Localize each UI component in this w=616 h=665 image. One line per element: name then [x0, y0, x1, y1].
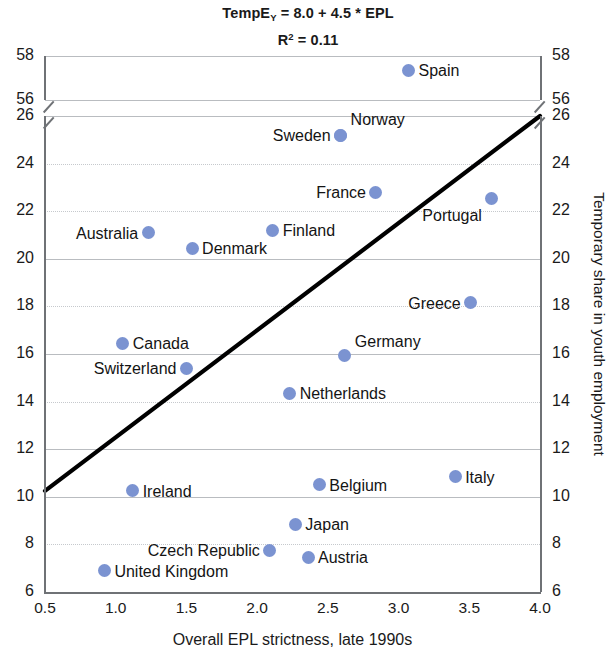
data-point-label-germany: Germany: [355, 333, 421, 350]
y-tick-label-left-58: 58: [0, 47, 34, 63]
data-point-label-greece: Greece: [408, 294, 460, 311]
y-tick-label-left-26: 26: [0, 107, 34, 123]
data-point-label-switzerland: Switzerland: [94, 360, 177, 377]
data-point-austria: [302, 551, 315, 564]
x-tick-label-1.5: 1.5: [163, 600, 209, 616]
x-axis-title: Overall EPL strictness, late 1990s: [45, 631, 540, 649]
data-point-italy: [449, 470, 462, 483]
data-point-label-ireland: Ireland: [143, 482, 192, 499]
data-point-label-france: France: [316, 184, 366, 201]
y-tick-label-right-16: 16: [552, 345, 586, 361]
y-axis-spine-lower-right: [540, 116, 542, 592]
y-tick-label-right-10: 10: [552, 488, 586, 504]
y-tick-label-right-14: 14: [552, 393, 586, 409]
x-tick-label-2.0: 2.0: [234, 600, 280, 616]
chart-title-r2-suffix: = 0.11: [294, 32, 339, 48]
data-point-label-norway: Norway: [351, 111, 405, 128]
chart-title-equation: TempEY = 8.0 + 4.5 * EPL: [0, 4, 616, 27]
data-point-label-portugal: Portugal: [422, 207, 482, 224]
data-point-label-united-kingdom: United Kingdom: [114, 562, 228, 579]
y-axis-spine-upper-left: [44, 56, 46, 100]
y-axis-spine-upper-right: [540, 56, 542, 100]
data-point-spain: [402, 64, 415, 77]
data-point-label-czech-republic: Czech Republic: [148, 542, 260, 559]
data-point-label-austria: Austria: [318, 549, 368, 566]
scatter-chart-figure: TempEY = 8.0 + 4.5 * EPL R2 = 0.11 Spain…: [0, 0, 616, 665]
y-tick-label-left-14: 14: [0, 393, 34, 409]
y-tick-label-right-22: 22: [552, 202, 586, 218]
y-tick-label-left-16: 16: [0, 345, 34, 361]
data-point-label-italy: Italy: [465, 468, 494, 485]
chart-title-r2: R2 = 0.11: [0, 27, 616, 50]
y-tick-label-left-12: 12: [0, 440, 34, 456]
data-point-label-sweden: Sweden: [273, 127, 331, 144]
y-tick-label-right-24: 24: [552, 155, 586, 171]
data-point-sweden: [334, 129, 347, 142]
x-tick-label-0.5: 0.5: [22, 600, 68, 616]
x-tick-label-3.0: 3.0: [376, 600, 422, 616]
plot-area: SpainNorwaySwedenFrancePortugalFinlandAu…: [45, 56, 540, 592]
chart-title-equation-prefix: TempE: [222, 5, 270, 21]
data-point-label-canada: Canada: [133, 335, 189, 352]
chart-title: TempEY = 8.0 + 4.5 * EPL R2 = 0.11: [0, 4, 616, 50]
data-point-label-japan: Japan: [305, 516, 349, 533]
data-point-germany: [338, 349, 351, 362]
data-point-label-belgium: Belgium: [329, 476, 387, 493]
y-tick-label-right-26: 26: [552, 107, 586, 123]
y-tick-label-left-20: 20: [0, 250, 34, 266]
y-tick-label-left-56: 56: [0, 91, 34, 107]
data-point-label-spain: Spain: [418, 62, 459, 79]
x-axis-spine: [44, 592, 541, 594]
data-point-portugal: [485, 192, 498, 205]
y-tick-label-right-58: 58: [552, 47, 586, 63]
data-point-switzerland: [180, 362, 193, 375]
y-tick-label-right-8: 8: [552, 535, 586, 551]
data-point-united-kingdom: [98, 564, 111, 577]
y-tick-label-left-18: 18: [0, 297, 34, 313]
y-tick-label-right-20: 20: [552, 250, 586, 266]
data-point-label-australia: Australia: [76, 224, 138, 241]
y-tick-label-right-56: 56: [552, 91, 586, 107]
data-point-netherlands: [283, 387, 296, 400]
data-point-japan: [289, 518, 302, 531]
x-tick-label-2.5: 2.5: [305, 600, 351, 616]
y-axis-spine-lower-left: [44, 116, 46, 592]
y-tick-label-right-18: 18: [552, 297, 586, 313]
x-tick-label-4.0: 4.0: [517, 600, 563, 616]
chart-title-r2-prefix: R: [278, 32, 289, 48]
y-tick-label-left-10: 10: [0, 488, 34, 504]
data-point-canada: [116, 337, 129, 350]
y-tick-label-left-8: 8: [0, 535, 34, 551]
y-tick-label-left-6: 6: [0, 583, 34, 599]
y-tick-label-right-6: 6: [552, 583, 586, 599]
y-axis-title-right: Temporary share in youth employment: [586, 56, 612, 592]
data-point-australia: [142, 226, 155, 239]
data-point-denmark: [186, 242, 199, 255]
y-tick-label-right-12: 12: [552, 440, 586, 456]
data-point-label-netherlands: Netherlands: [300, 385, 386, 402]
chart-title-equation-suffix: = 8.0 + 4.5 * EPL: [277, 5, 394, 21]
data-point-finland: [266, 224, 279, 237]
y-tick-label-left-24: 24: [0, 155, 34, 171]
data-point-label-finland: Finland: [283, 222, 335, 239]
x-tick-label-3.5: 3.5: [446, 600, 492, 616]
data-point-label-denmark: Denmark: [202, 240, 267, 257]
x-tick-label-1.0: 1.0: [93, 600, 139, 616]
y-tick-label-left-22: 22: [0, 202, 34, 218]
